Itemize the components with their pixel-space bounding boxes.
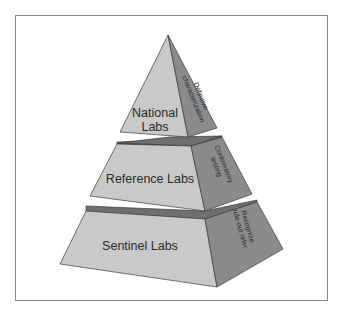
tier-national-label-line-1: National bbox=[132, 106, 178, 120]
tier-national-label-line-2: Labs bbox=[141, 120, 168, 134]
tier-sentinel-labs: Sentinel Labs Recognize rule-out refer bbox=[60, 200, 283, 287]
tier-reference-label: Reference Labs bbox=[106, 172, 194, 186]
tier-sentinel-label: Sentinel Labs bbox=[102, 239, 178, 253]
lab-pyramid-diagram: Sentinel Labs Recognize rule-out refer R… bbox=[0, 0, 347, 316]
tier-reference-labs: Reference Labs Confirmatory testing bbox=[90, 136, 252, 211]
tier-national-labs: National Labs Definitive characterizatio… bbox=[120, 35, 217, 137]
